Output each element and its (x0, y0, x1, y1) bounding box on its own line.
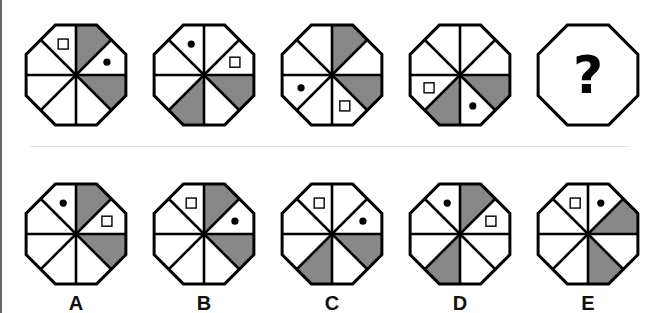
square-icon (570, 198, 580, 208)
dot-icon (60, 199, 67, 206)
square-icon (102, 216, 112, 226)
dot-icon (597, 199, 604, 206)
octagon-figure (404, 178, 516, 290)
row-divider (30, 146, 630, 147)
octagon-figure (276, 178, 388, 290)
option-b[interactable] (148, 178, 260, 290)
octagon-figure (276, 19, 388, 131)
dot-icon (231, 218, 238, 225)
dot-icon (444, 199, 451, 206)
square-icon (424, 83, 434, 93)
option-label-b[interactable]: B (184, 292, 224, 313)
sequence-figure-1 (20, 19, 132, 131)
option-c[interactable] (276, 178, 388, 290)
octagon-figure (148, 178, 260, 290)
sequence-figure-unknown: ? (532, 19, 644, 131)
square-icon (340, 101, 350, 111)
left-border (0, 0, 2, 313)
option-label-e[interactable]: E (568, 292, 608, 313)
square-icon (486, 216, 496, 226)
sequence-figure-2 (148, 19, 260, 131)
option-label-a[interactable]: A (56, 292, 96, 313)
square-icon (230, 57, 240, 67)
octagon-figure (532, 178, 644, 290)
sequence-figure-3 (276, 19, 388, 131)
option-d[interactable] (404, 178, 516, 290)
octagon-figure (148, 19, 260, 131)
option-a[interactable] (20, 178, 132, 290)
square-icon (314, 198, 324, 208)
octagon-figure (404, 19, 516, 131)
dot-icon (103, 59, 110, 66)
option-e[interactable] (532, 178, 644, 290)
octagon-figure (20, 19, 132, 131)
option-label-c[interactable]: C (312, 292, 352, 313)
square-icon (186, 198, 196, 208)
dot-icon (297, 84, 304, 91)
square-icon (58, 39, 68, 49)
dot-icon (188, 40, 195, 47)
option-label-d[interactable]: D (440, 292, 480, 313)
octagon-figure: ? (532, 19, 644, 131)
dot-icon (469, 102, 476, 109)
octagon-figure (20, 178, 132, 290)
question-mark: ? (573, 45, 603, 105)
dot-icon (359, 218, 366, 225)
sequence-figure-4 (404, 19, 516, 131)
